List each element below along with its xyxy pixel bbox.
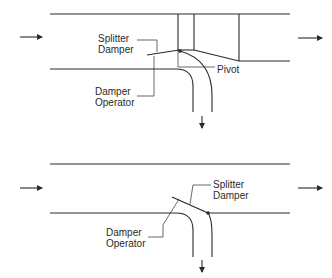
bottom-operator-label-line1: Damper (106, 227, 145, 238)
damper-diagram-canvas (0, 0, 332, 278)
top-pivot-icon (178, 49, 182, 53)
bottom-splitter-leader (190, 185, 211, 204)
bottom-splitter-damper-blade (172, 197, 208, 213)
top-splitter-label-line1: Splitter (98, 33, 134, 44)
top-pivot-label: Pivot (217, 64, 239, 75)
top-transition-diagonal (194, 50, 239, 61)
top-splitter-label-line2: Damper (98, 44, 134, 55)
top-operator-label-line2: Operator (95, 97, 134, 108)
top-damper-operator-label: Damper Operator (95, 86, 134, 108)
top-operator-leader (137, 56, 154, 96)
top-splitter-damper-label: Splitter Damper (98, 33, 134, 55)
top-splitter-leader (137, 40, 157, 52)
top-diagram (20, 14, 322, 128)
bottom-branch-outer-wall (208, 213, 212, 257)
bottom-splitter-label-line2: Damper (213, 190, 249, 201)
bottom-pivot-icon (206, 211, 210, 215)
bottom-diagram (20, 164, 322, 272)
bottom-operator-leader (148, 199, 179, 237)
bottom-splitter-label-line1: Splitter (213, 179, 249, 190)
bottom-operator-label-line2: Operator (106, 238, 145, 249)
bottom-splitter-damper-label: Splitter Damper (213, 179, 249, 201)
top-operator-label-line1: Damper (95, 86, 134, 97)
bottom-damper-operator-label: Damper Operator (106, 227, 145, 249)
top-branch-outer-wall (180, 51, 212, 112)
top-splitter-damper-blade (147, 50, 179, 55)
